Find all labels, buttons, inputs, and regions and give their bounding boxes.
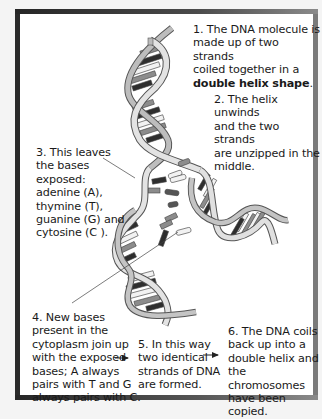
step-4-line: always pairs with C. bbox=[32, 391, 141, 404]
step-2-line: and the two strands bbox=[214, 120, 322, 147]
step-3-line: the bases bbox=[36, 159, 125, 172]
step-5-line: are formed. bbox=[138, 378, 220, 391]
step-5-line: two identical bbox=[138, 351, 220, 364]
step-2-line: middle. bbox=[214, 160, 322, 173]
step-3-line: adenine (A), bbox=[36, 186, 125, 199]
step-3-line: guanine (G) and bbox=[36, 213, 125, 226]
step-6-line: 6. The DNA coils bbox=[228, 325, 322, 338]
step-4-line: present in the bbox=[32, 324, 141, 337]
step-4-text: 4. New bases present in the cytoplasm jo… bbox=[32, 311, 141, 405]
step-1-line: 1. The DNA molecule is bbox=[193, 23, 322, 36]
step-4-line: bases; A always bbox=[32, 365, 141, 378]
step-3-line: cytosine (C ). bbox=[36, 226, 125, 239]
step-1-text: 1. The DNA molecule is made up of two st… bbox=[193, 23, 322, 90]
step-1-line: made up of two strands bbox=[193, 36, 322, 63]
step-5-text: 5. In this way two identical strands of … bbox=[138, 338, 220, 392]
step-3-line: exposed: bbox=[36, 173, 125, 186]
step-4-line: cytoplasm join up bbox=[32, 338, 141, 351]
step-4-line: with the exposed bbox=[32, 351, 141, 364]
step-6-text: 6. The DNA coils back up into a double h… bbox=[228, 325, 322, 419]
step-3-line: thymine (T), bbox=[36, 200, 125, 213]
step-4-line: 4. New bases bbox=[32, 311, 141, 324]
step-6-line: double helix and bbox=[228, 352, 322, 365]
step-5-line: 5. In this way bbox=[138, 338, 220, 351]
step-3-line: 3. This leaves bbox=[36, 146, 125, 159]
step-1-bold-line: double helix shape. bbox=[193, 77, 322, 90]
step-3-text: 3. This leaves the bases exposed: adenin… bbox=[36, 146, 125, 240]
step-4-line: pairs with T and G bbox=[32, 378, 141, 391]
punctuation: . bbox=[309, 77, 312, 90]
upper-double-helix bbox=[128, 28, 200, 170]
step-2-text: 2. The helix unwinds and the two strands… bbox=[214, 93, 322, 173]
exposed-bases bbox=[148, 158, 192, 246]
right-double-helix bbox=[191, 170, 288, 244]
step-1-line: coiled together in a bbox=[193, 63, 322, 76]
step-2-line: 2. The helix unwinds bbox=[214, 93, 322, 120]
step-5-line: strands of DNA bbox=[138, 365, 220, 378]
double-helix-shape-term: double helix shape bbox=[193, 77, 309, 90]
step-2-line: are unzipped in the bbox=[214, 147, 322, 160]
step-6-line: back up into a bbox=[228, 338, 322, 351]
step-6-line: the chromosomes bbox=[228, 365, 322, 392]
step-6-line: have been copied. bbox=[228, 392, 322, 419]
